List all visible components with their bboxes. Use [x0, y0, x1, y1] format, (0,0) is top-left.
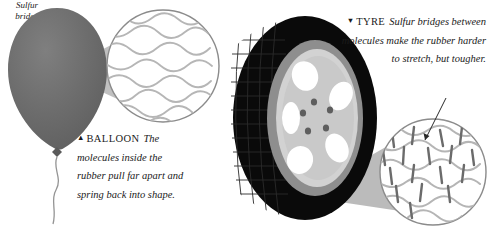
balloon-caption-lead: BALLOON	[86, 133, 139, 144]
balloon-magnifier-circle	[100, 2, 219, 130]
tyre-caption-marker: ▼	[347, 16, 354, 25]
tyre-caption: ▼TYRE Sulfur bridges between molecules m…	[340, 11, 486, 67]
balloon-caption: ▲BALLOON The molecules inside the rubber…	[77, 128, 189, 202]
tyre-caption-lead: TYRE	[356, 16, 385, 27]
figure-canvas: ▲BALLOON The molecules inside the rubber…	[0, 0, 488, 228]
balloon-caption-marker: ▲	[77, 133, 84, 142]
balloon-string	[53, 157, 58, 224]
